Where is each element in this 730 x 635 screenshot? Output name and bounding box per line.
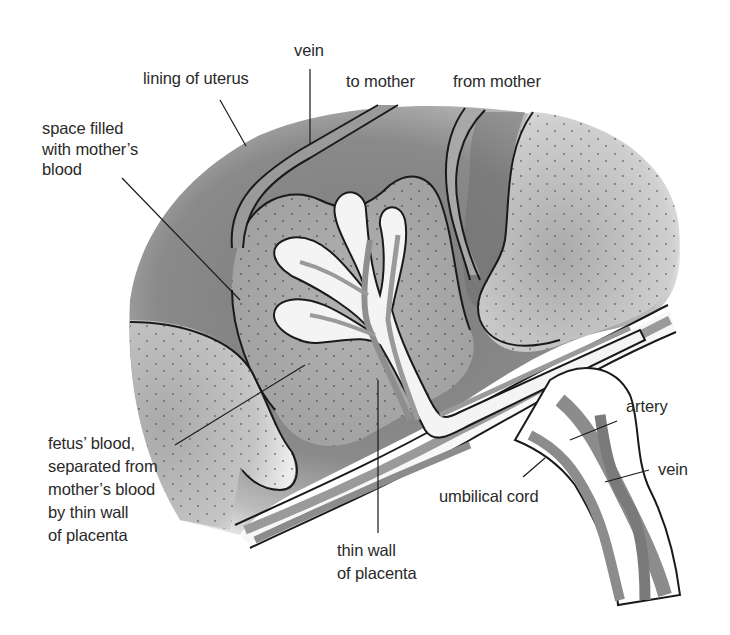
label-umbilical-cord: umbilical cord [439, 486, 538, 507]
label-to-mother: to mother [346, 71, 415, 92]
label-space-filled-with-mothers-blood: space filled with mother’s blood [42, 118, 138, 180]
placenta-diagram: vein lining of uterus to mother from mot… [0, 0, 730, 635]
label-artery: artery [626, 396, 668, 417]
label-thin-wall-of-placenta: thin wall of placenta [337, 539, 417, 585]
label-vein-cord: vein [658, 459, 688, 480]
label-from-mother: from mother [453, 71, 541, 92]
label-vein-top: vein [294, 40, 324, 61]
label-fetus-blood: fetus’ blood, separated from mother’s bl… [48, 432, 158, 547]
label-lining-of-uterus: lining of uterus [143, 68, 249, 89]
